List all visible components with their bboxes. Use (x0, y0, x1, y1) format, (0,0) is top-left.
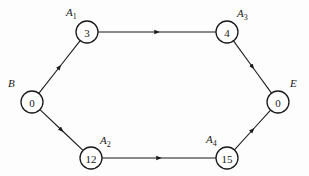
node-a4: 15A4 (205, 133, 238, 169)
node-value: 0 (29, 97, 35, 109)
node-value: 0 (275, 97, 281, 109)
node-value: 3 (84, 27, 90, 39)
node-a2: 12A2 (80, 134, 111, 169)
diagram-svg: 0B3A112A24A315A40E (0, 0, 309, 176)
edge-line (253, 67, 272, 93)
edge-line (60, 41, 81, 67)
edge-b-a1 (39, 41, 80, 94)
node-e: 0E (267, 77, 297, 113)
edge-a4-e (234, 110, 270, 150)
node-a3: 4A3 (216, 7, 248, 43)
edge-arrow-icon (39, 67, 60, 93)
node-label: A4 (205, 133, 217, 148)
node-label: A3 (236, 7, 248, 22)
node-label: E (289, 77, 297, 89)
node-label: B (8, 77, 15, 89)
edge-arrow-icon (233, 41, 252, 67)
network-diagram: 0B3A112A24A315A40E (0, 0, 309, 176)
node-b: 0B (8, 77, 43, 113)
node-value: 4 (224, 27, 230, 39)
edge-b-a2 (40, 110, 83, 151)
edge-a3-e (233, 41, 271, 93)
node-a1: 3A1 (65, 6, 98, 43)
nodes-layer: 0B3A112A24A315A40E (8, 6, 297, 169)
edge-line (62, 130, 84, 150)
node-value: 15 (222, 153, 234, 165)
edge-arrow-icon (40, 110, 62, 130)
node-label: A2 (99, 134, 111, 149)
node-value: 12 (86, 153, 97, 165)
edges-layer (39, 32, 272, 158)
edge-arrow-icon (234, 130, 252, 150)
node-label: A1 (65, 6, 77, 21)
edge-line (253, 110, 271, 130)
